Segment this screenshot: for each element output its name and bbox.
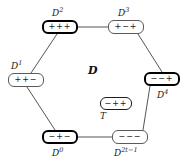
node-label-exponent-D2: 2 <box>59 6 63 14</box>
node-D1[interactable]: ++− <box>8 73 44 87</box>
node-label-exponent-D4: 4 <box>164 88 168 96</box>
node-label-D3: D3 <box>118 6 129 18</box>
edge-D4-to-D2t-1 <box>143 86 150 130</box>
node-label-D2: D2 <box>52 6 63 18</box>
node-label-T: T <box>100 111 106 121</box>
edge-D3-to-D4 <box>138 34 162 72</box>
node-sign-D1: ++− <box>14 76 37 84</box>
edge-D0-to-D1 <box>27 87 55 130</box>
center-region-label: D <box>88 64 98 77</box>
node-label-D2t-1: D2t−1 <box>114 146 138 158</box>
node-D3[interactable]: +−+ <box>108 20 144 34</box>
edge-D1-to-D2 <box>31 34 57 73</box>
node-sign-D2t-1: −−− <box>118 133 141 141</box>
node-label-exponent-D0: 0 <box>59 146 63 154</box>
node-D2t-1[interactable]: −−− <box>112 130 148 144</box>
node-sign-D2: +++ <box>48 23 71 31</box>
node-sign-D3: +−+ <box>114 23 137 31</box>
node-T[interactable]: −++ <box>100 97 132 110</box>
node-sign-T: −++ <box>104 99 127 107</box>
node-sign-D0: −+− <box>48 133 71 141</box>
node-D4[interactable]: −−+ <box>144 72 180 86</box>
node-label-D4: D4 <box>157 88 168 100</box>
node-label-D0: D0 <box>52 146 63 158</box>
node-label-exponent-D1: 1 <box>18 59 22 67</box>
node-D0[interactable]: −+− <box>42 130 78 144</box>
node-label-base-T: T <box>100 111 106 121</box>
node-label-exponent-D3: 3 <box>125 6 129 14</box>
node-label-D1: D1 <box>11 59 22 71</box>
hypercube-cycle-diagram: +++D2+−+D3++−D1−−+D4−+−D0−−−D2t−1−++T D <box>0 0 188 167</box>
node-sign-D4: −−+ <box>150 75 173 83</box>
node-D2[interactable]: +++ <box>42 20 78 34</box>
node-label-exponent-D2t-1: 2t−1 <box>121 146 137 154</box>
